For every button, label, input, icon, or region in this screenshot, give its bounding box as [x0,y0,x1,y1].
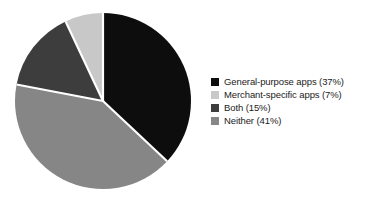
legend-label-general-purpose-apps: General-purpose apps (37%) [224,76,344,87]
legend-swatch-both [211,104,219,112]
chart-legend: General-purpose apps (37%) Merchant-spec… [211,75,369,127]
pie-chart-plot-area [14,12,192,190]
legend-label-both: Both (15%) [224,102,271,113]
legend-item-merchant-specific-apps[interactable]: Merchant-specific apps (7%) [211,88,369,101]
legend-label-neither: Neither (41%) [224,115,281,126]
pie-chart-svg [14,12,192,190]
legend-swatch-general-purpose-apps [211,78,219,86]
legend-item-general-purpose-apps[interactable]: General-purpose apps (37%) [211,75,369,88]
legend-item-neither[interactable]: Neither (41%) [211,114,369,127]
legend-swatch-merchant-specific-apps [211,91,219,99]
pie-chart-figure: General-purpose apps (37%) Merchant-spec… [0,0,370,200]
legend-item-both[interactable]: Both (15%) [211,101,369,114]
legend-swatch-neither [211,117,219,125]
legend-label-merchant-specific-apps: Merchant-specific apps (7%) [224,89,342,100]
